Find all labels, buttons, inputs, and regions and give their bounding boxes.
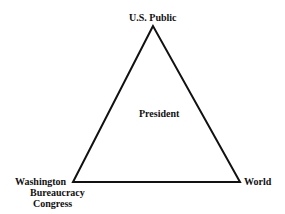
- vertex-label-washington: Washington: [15, 176, 66, 187]
- vertex-label-congress: Congress: [33, 198, 72, 209]
- triangle-outline: [73, 26, 240, 182]
- vertex-label-world: World: [244, 176, 271, 187]
- vertex-label-us-public: U.S. Public: [129, 12, 177, 23]
- vertex-label-bureaucracy: Bureaucracy: [30, 187, 85, 198]
- center-label-president: President: [139, 108, 179, 119]
